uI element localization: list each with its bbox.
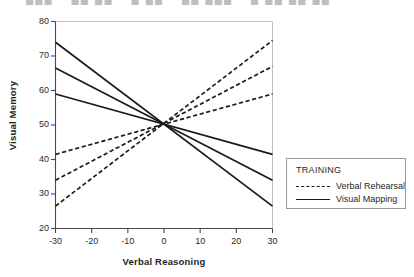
x-tick-label: 10 <box>185 236 215 246</box>
x-tick-label: -20 <box>77 236 107 246</box>
legend-label: Verbal Rehearsal <box>336 181 405 191</box>
legend-label: Visual Mapping <box>336 194 397 204</box>
series-line <box>56 42 273 206</box>
y-tick-label: 20 <box>23 223 49 233</box>
x-axis-title: Verbal Reasoning <box>55 256 273 267</box>
x-tick-label: 20 <box>221 236 251 246</box>
y-tick-label: 80 <box>23 16 49 26</box>
y-tick-label: 50 <box>23 119 49 129</box>
y-tick-label: 30 <box>23 188 49 198</box>
x-tick-label: 30 <box>258 236 288 246</box>
x-tick-label: -10 <box>113 236 143 246</box>
x-tick-label: -30 <box>41 236 71 246</box>
y-axis-title: Visual Memory <box>7 66 18 166</box>
legend-key-solid-icon <box>296 199 330 200</box>
chart-figure: Visual Memory Verbal Reasoning 203040506… <box>0 0 414 277</box>
y-tick-label: 40 <box>23 154 49 164</box>
legend-box: TRAINING Verbal Rehearsal Visual Mapping <box>286 158 406 209</box>
y-tick-label: 70 <box>23 50 49 60</box>
legend-key-dashed-icon <box>296 186 330 187</box>
series-lines <box>56 40 273 206</box>
x-tick-label: 0 <box>149 236 179 246</box>
y-tick-label: 60 <box>23 85 49 95</box>
legend-title: TRAINING <box>296 165 341 175</box>
tick-marks <box>51 22 273 234</box>
